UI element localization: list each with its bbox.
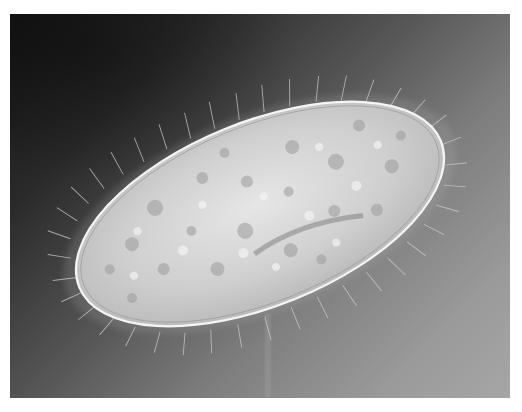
paramecium-micrograph: Micrograph of an oval, ciliated parameci… xyxy=(10,14,510,398)
background-streak xyxy=(265,314,271,398)
paramecium-illustration xyxy=(10,14,510,398)
